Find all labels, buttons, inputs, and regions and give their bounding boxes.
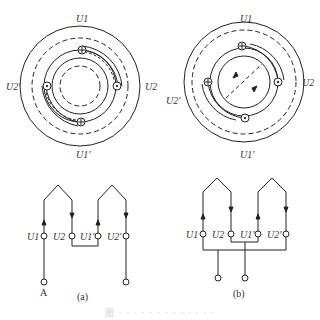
terminal-b-U2: U2 xyxy=(212,229,224,240)
input-label-a: A xyxy=(40,287,48,298)
terminal-a-U1: U1 xyxy=(27,231,39,242)
terminal-b-U2p: U2' xyxy=(267,229,282,240)
label-b-left: U2' xyxy=(166,95,181,106)
label-b-right: U2 xyxy=(302,77,314,88)
terminal-a-U2: U2 xyxy=(53,231,65,242)
label-a-bottom: U1' xyxy=(76,149,91,160)
terminal-b-U1: U1 xyxy=(186,229,198,240)
sublabel-a: (a) xyxy=(77,291,88,303)
sublabel-b: (b) xyxy=(233,288,245,300)
terminal-b-U1p: U1' xyxy=(240,229,255,240)
figure-caption: 图 · · · · · · · · · · · · · xyxy=(60,306,260,319)
terminal-a-U2p: U2' xyxy=(107,231,122,242)
label-b-top: U1 xyxy=(240,13,252,24)
label-a-left: U2' xyxy=(6,81,21,92)
terminal-a-U1p: U1' xyxy=(80,231,95,242)
label-a-top: U1 xyxy=(76,13,88,24)
stator-b xyxy=(184,22,304,142)
label-b-bottom: U1' xyxy=(240,149,255,160)
stator-a xyxy=(20,26,140,146)
label-a-right: U2 xyxy=(145,81,157,92)
winding-connection-diagram: U1 U2 U2' U1' U1 U2 U2' U1' xyxy=(0,0,320,320)
